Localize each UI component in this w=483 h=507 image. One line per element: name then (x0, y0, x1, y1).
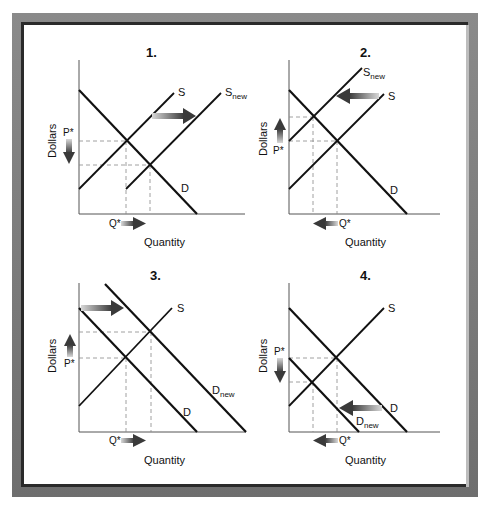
shift-right-arrow-icon (152, 108, 196, 124)
price-label: P* (63, 127, 74, 138)
demand-label: D (183, 406, 191, 418)
y-axis-label: Dollars (46, 123, 58, 158)
supply-new-label: Snew (225, 86, 247, 101)
y-axis-label: Dollars (257, 338, 269, 373)
demand-new-label: Dnew (356, 415, 379, 430)
panel-4: 4. S D Dnew Dollars P* Q* Quantity (257, 268, 440, 466)
demand-new-label: Dnew (212, 384, 235, 399)
panel-3: 3. S D Dnew Dollars P* Q* Quantity (46, 268, 246, 466)
supply-label: S (178, 86, 185, 98)
x-axis-label: Quantity (345, 454, 386, 466)
y-axis-label: Dollars (257, 121, 269, 156)
shift-left-arrow-icon (339, 400, 382, 416)
quantity-label: Q* (339, 218, 351, 229)
supply-new-label: Snew (363, 66, 385, 81)
quantity-left-arrow-icon (313, 217, 338, 230)
quantity-right-arrow-icon (121, 217, 146, 230)
quantity-label: Q* (109, 435, 121, 446)
demand-curve (79, 90, 197, 214)
panel-title: 1. (146, 45, 157, 60)
supply-label: S (177, 302, 184, 314)
price-label: P* (274, 346, 285, 357)
price-down-arrow-icon (274, 358, 286, 383)
supply-new-curve (126, 93, 221, 189)
panel-title: 4. (360, 268, 371, 283)
supply-label: S (388, 90, 395, 102)
y-axis-label: Dollars (46, 338, 58, 373)
quantity-left-arrow-icon (313, 434, 338, 447)
demand-label: D (390, 184, 398, 196)
panel-2: 2. S Snew D Dollars P* Q* Quantity (257, 45, 440, 248)
price-up-arrow-icon (64, 334, 76, 357)
supply-label: S (388, 302, 395, 314)
price-label: P* (64, 358, 75, 369)
panel-1: 1. S Snew D Dollars P* Q* Quantity (46, 45, 247, 248)
x-axis-label: Quantity (345, 236, 386, 248)
x-axis-label: Quantity (144, 454, 185, 466)
supply-new-curve (289, 68, 362, 141)
demand-label: D (390, 402, 398, 414)
quantity-label: Q* (339, 435, 351, 446)
panel-title: 3. (150, 268, 161, 283)
price-up-arrow-icon (274, 118, 286, 143)
price-down-arrow-icon (63, 139, 75, 164)
supply-demand-diagrams: 1. S Snew D Dollars P* Q* Quantity 2. (0, 0, 483, 507)
x-axis-label: Quantity (144, 236, 185, 248)
shift-right-arrow-icon (81, 300, 124, 316)
demand-label: D (181, 182, 189, 194)
demand-curve (79, 308, 197, 432)
quantity-right-arrow-icon (121, 434, 146, 447)
quantity-label: Q* (109, 218, 121, 229)
price-label: P* (273, 145, 284, 156)
equilibrium-guides (289, 358, 337, 432)
shift-left-arrow-icon (336, 88, 379, 104)
panel-title: 2. (360, 45, 371, 60)
